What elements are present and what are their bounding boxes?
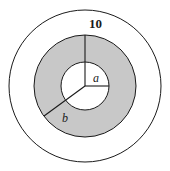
geometry-diagram: 10 a b <box>0 0 170 171</box>
label-ten: 10 <box>89 16 102 31</box>
label-b: b <box>62 111 68 125</box>
label-a: a <box>93 71 99 85</box>
concentric-circles-figure: 10 a b <box>0 0 170 171</box>
